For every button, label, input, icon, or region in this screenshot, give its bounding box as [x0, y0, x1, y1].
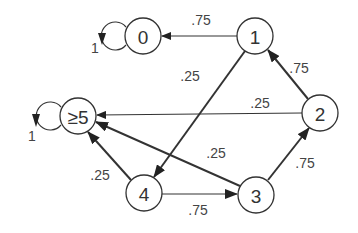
- edge-label-1-4: .25: [180, 68, 200, 84]
- node-label-5plus: ≥5: [68, 107, 89, 128]
- node-label-4: 4: [139, 184, 150, 205]
- edge-2-to-5plus: .25: [97, 95, 302, 115]
- edge-4-to-3: .75: [162, 194, 237, 218]
- edge-label-3-5plus: .25: [206, 145, 226, 161]
- edge-2-to-1: .75: [268, 50, 309, 99]
- edge-3-to-5plus: .25: [96, 122, 240, 186]
- edge-label-4-5plus: .25: [90, 167, 110, 183]
- edge-label-2-5plus: .25: [250, 95, 270, 111]
- edge-label-4-3: .75: [188, 202, 208, 218]
- edge-label-2-1: .75: [289, 60, 309, 76]
- node-label-2: 2: [315, 104, 326, 125]
- node-3: 3: [238, 177, 274, 213]
- edge-3-to-2: .75: [268, 128, 315, 180]
- loop-label-0: 1: [91, 40, 99, 56]
- self-loop-5plus: 1: [28, 102, 61, 144]
- node-label-3: 3: [251, 186, 262, 207]
- node-5plus: ≥5: [60, 98, 96, 134]
- node-label-1: 1: [250, 27, 261, 48]
- node-0: 0: [125, 18, 161, 54]
- self-loop-0: 1: [91, 22, 126, 56]
- edge-1-to-0: .75: [162, 12, 237, 36]
- state-transition-diagram: 1 1 .75 .25 .75 .25 .75 .25 .75 .25: [0, 0, 358, 233]
- loop-arrowhead-0-icon: [98, 33, 106, 45]
- loop-label-5plus: 1: [28, 128, 36, 144]
- node-label-0: 0: [138, 27, 149, 48]
- loop-arc-5plus: [36, 102, 61, 130]
- edge-label-1-0: .75: [191, 12, 211, 28]
- edge-line-3-2: [268, 128, 309, 180]
- node-4: 4: [126, 175, 162, 211]
- node-1: 1: [237, 18, 273, 54]
- edge-4-to-5plus: .25: [88, 132, 131, 183]
- node-2: 2: [302, 95, 338, 131]
- edge-label-3-2: .75: [295, 155, 315, 171]
